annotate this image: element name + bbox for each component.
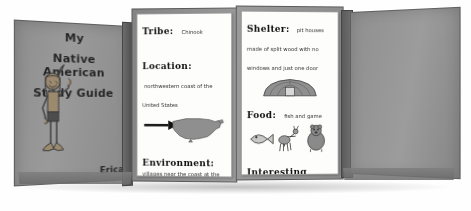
shelter-illustration: [247, 76, 333, 101]
deer-icon: [279, 126, 299, 151]
section-food: Food: fish and game: [247, 103, 333, 122]
bear-icon: [308, 125, 325, 152]
fish-icon: [251, 134, 274, 143]
poster-page-left: Tribe: Chinook Location: northwestern co…: [136, 12, 232, 177]
stick-figure-icon: [24, 60, 86, 156]
board-base-right: [343, 168, 455, 180]
section-location: Location: northwestern coast of the Unit…: [142, 54, 226, 111]
tribe-value: Chinook: [181, 29, 202, 35]
cover-title-line-1: My: [19, 29, 126, 47]
location-heading: Location:: [142, 61, 191, 71]
fish-deer-bear-icon: [247, 124, 333, 154]
environment-value: villages near the coast at the mouth of …: [142, 171, 226, 178]
food-illustration: [247, 124, 333, 158]
stick-figure-illustration: [24, 60, 86, 156]
map-illustration: [142, 113, 226, 149]
food-heading: Food:: [247, 110, 276, 120]
section-tribe: Tribe: Chinook: [142, 19, 226, 39]
board-right-wing-panel: [350, 7, 461, 180]
facts-heading: Interesting Facts:: [247, 167, 307, 176]
section-environment: Environment: villages near the coast at …: [142, 151, 226, 178]
food-value: fish and game: [284, 113, 322, 119]
environment-heading: Environment:: [142, 158, 214, 169]
board-base-left: [18, 172, 132, 184]
pit-house-icon: [259, 76, 321, 97]
photo-scene: My Native American Study Guide Erica: [0, 0, 471, 211]
section-interesting-facts: Interesting Facts: were the best-known t…: [247, 160, 333, 176]
poster-page-right: Shelter: pit houses made of split wood w…: [241, 11, 339, 176]
arrow-icon: [144, 120, 177, 129]
location-value: northwestern coast of the United States: [142, 83, 212, 108]
tribe-heading: Tribe:: [142, 26, 173, 36]
united-states-map-icon: [142, 113, 228, 145]
section-shelter: Shelter: pit houses made of split wood w…: [247, 17, 333, 74]
shelter-heading: Shelter:: [247, 24, 290, 34]
